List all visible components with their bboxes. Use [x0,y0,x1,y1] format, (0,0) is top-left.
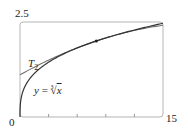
y-max-label: 2.5 [15,8,29,19]
plot-frame [20,22,163,117]
curve-equals: = [39,84,51,96]
x-max-label: 15 [166,113,177,124]
cube-root-curve-line [20,23,163,117]
t2-label: T2 [28,58,38,72]
t2-subscript: 2 [34,63,38,72]
x-min-label: 0 [9,117,15,128]
cube-root-label: y = 3√x [34,84,62,96]
curve-x: x [57,84,62,96]
tangency-point [95,39,98,42]
